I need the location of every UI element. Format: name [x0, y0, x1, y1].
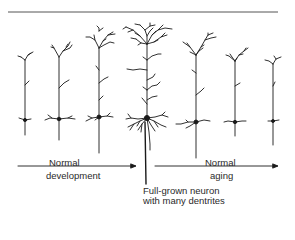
soma [272, 120, 275, 123]
development-label-line1: Normal [49, 158, 80, 168]
soma [194, 120, 198, 124]
fullgrown-pointer-line [145, 122, 146, 184]
soma [57, 117, 61, 121]
neuron-developing-2 [45, 42, 75, 140]
fullgrown-label-line2: with many dentrites [143, 196, 225, 206]
neuron-full-grown [123, 23, 172, 150]
development-label-line2: development [46, 171, 100, 181]
neuron-aging-2 [224, 48, 248, 136]
soma [233, 120, 236, 123]
neuron-developing-3 [86, 26, 115, 153]
soma [97, 115, 101, 119]
neuron-developing-1 [18, 52, 33, 135]
aging-label-line2: aging [210, 171, 233, 181]
neuron-aging-3 [265, 56, 281, 145]
soma [144, 115, 149, 120]
soma [23, 118, 26, 121]
aging-label-line1: Normal [205, 158, 236, 168]
neuron-aging-1 [176, 33, 216, 158]
